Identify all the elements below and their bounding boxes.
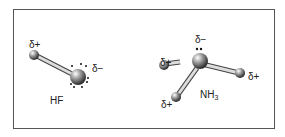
partial-charge-label: δ− — [195, 35, 206, 45]
hydrogen-atom-right — [235, 68, 245, 78]
molecule-drawings — [0, 0, 285, 137]
hf-molecule — [29, 50, 89, 88]
partial-charge-label: δ+ — [29, 40, 40, 50]
hydrogen-atom — [29, 50, 39, 60]
partial-charge-label: δ+ — [248, 72, 259, 82]
partial-charge-label: δ+ — [160, 58, 171, 68]
molecule-name-subscript: 3 — [214, 94, 218, 101]
nitrogen-atom — [192, 53, 208, 69]
lone-pair-dots — [196, 48, 202, 50]
molecule-name: HF — [50, 96, 63, 106]
partial-charge-label: δ+ — [161, 100, 172, 110]
molecule-name-main: NH — [200, 89, 214, 100]
hydrogen-atom-bottom — [171, 92, 181, 102]
fluorine-atom — [70, 69, 86, 85]
partial-charge-label: δ− — [92, 64, 103, 74]
molecule-name: NH3 — [200, 90, 218, 101]
